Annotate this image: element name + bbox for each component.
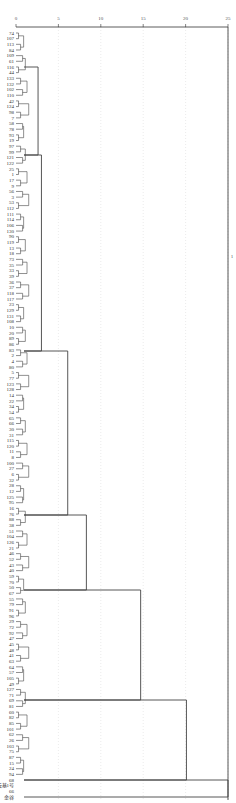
leaf-label: 129 <box>7 308 15 313</box>
leaf-label: 49 <box>9 682 15 687</box>
cluster-merge <box>24 700 186 780</box>
leaf-label: 101 <box>7 727 15 732</box>
leaf-label: 119 <box>7 240 15 245</box>
leaf-label: 39 <box>9 274 15 279</box>
leaf-label: 75 <box>9 749 15 754</box>
leaf-label: 21 <box>9 546 15 551</box>
leaf-label: 16 <box>9 506 15 511</box>
dendrogram-chart: 0510152025741071138410961116441331321021… <box>0 0 236 803</box>
x-tick-label: 15 <box>141 16 147 21</box>
side-marker: 1 <box>231 254 234 259</box>
leaf-label: 116 <box>7 65 15 70</box>
leaf-label: 70 <box>9 580 15 585</box>
cluster-merge <box>24 515 86 590</box>
leaf-label: 25 <box>9 167 15 172</box>
leaf-label: 118 <box>7 291 15 296</box>
leaf-label: 87 <box>9 755 15 760</box>
leaf-label: 120 <box>7 444 15 449</box>
leaf-label: 57 <box>9 670 15 675</box>
leaf-label: 77 <box>9 376 15 381</box>
leaf-label: 117 <box>7 297 15 302</box>
leaf-label: 10 <box>9 325 15 330</box>
leaf-label: 41 <box>9 653 15 658</box>
leaf-label: 29 <box>9 619 15 624</box>
leaf-label: 76 <box>9 512 15 517</box>
leaf-label: 89 <box>9 336 15 341</box>
leaf-label: 13 <box>9 246 15 251</box>
leaf-label: 127 <box>7 687 15 692</box>
leaf-label: 32 <box>9 478 15 483</box>
leaf-label: 15 <box>9 761 15 766</box>
leaf-label: 14 <box>9 393 15 398</box>
leaf-label: 12 <box>9 489 15 494</box>
leaf-label: 18 <box>9 251 15 256</box>
leaf-label: 84 <box>9 48 15 53</box>
leaf-label: 56 <box>9 189 15 194</box>
leaf-label: 61 <box>9 59 15 64</box>
leaf-label: 110 <box>7 93 15 98</box>
leaf-label: 58 <box>9 121 15 126</box>
leaf-label: 122 <box>7 161 15 166</box>
leaf-label: 96 <box>9 614 15 619</box>
leaf-label: 43 <box>9 563 15 568</box>
leaf-label: 108 <box>7 319 15 324</box>
leaf-label: 5 <box>12 370 15 375</box>
leaf-label: 121 <box>7 155 15 160</box>
leaf-label: 36 <box>9 280 15 285</box>
cluster-merge <box>24 590 141 700</box>
leaf-label: 37 <box>9 285 15 290</box>
cluster-merge <box>24 67 38 155</box>
leaf-label: 42 <box>9 99 15 104</box>
leaf-label: 48 <box>9 648 15 653</box>
leaf-label: 94 <box>9 772 15 777</box>
leaf-label: 28 <box>9 483 15 488</box>
leaf-label: 27 <box>9 466 15 471</box>
leaf-label: 114 <box>7 217 15 222</box>
leaf-label: 2 <box>12 353 15 358</box>
leaf-label: 90 <box>9 234 15 239</box>
leaf-label: 35 <box>9 263 15 268</box>
x-tick-label: 25 <box>226 16 232 21</box>
leaf-label: 79 <box>9 602 15 607</box>
leaf-label: 72 <box>9 625 15 630</box>
leaf-label: 124 <box>7 104 15 109</box>
leaf-label: 44 <box>9 70 15 75</box>
leaf-label: 46 <box>9 551 15 556</box>
leaf-label: 80 <box>9 365 15 370</box>
leaf-label: 3 <box>12 195 15 200</box>
leaf-label: 99 <box>9 150 15 155</box>
leaf-label: 34 <box>9 404 15 409</box>
x-tick-label: 5 <box>57 16 60 21</box>
leaf-label: 8 <box>12 455 15 460</box>
leaf-label: 47 <box>9 636 15 641</box>
leaf-label: 123 <box>7 382 15 387</box>
leaf-label: 115 <box>7 438 15 443</box>
leaf-label: 51 <box>9 529 15 534</box>
x-tick-label: 20 <box>183 16 189 21</box>
leaf-label: 26 <box>9 738 15 743</box>
leaf-label: 95 <box>9 500 15 505</box>
leaf-label: 83 <box>9 348 15 353</box>
leaf-label: 126 <box>7 540 15 545</box>
leaf-label: 86 <box>9 342 15 347</box>
x-tick-label: 0 <box>15 16 18 21</box>
cluster-merge <box>24 351 68 515</box>
leaf-label: 91 <box>9 608 15 613</box>
cluster-merge <box>24 155 41 351</box>
leaf-label: 100 <box>7 461 15 466</box>
leaf-label: 74 <box>9 31 15 36</box>
leaf-label: 52 <box>9 557 15 562</box>
leaf-label: 19 <box>9 138 15 143</box>
leaf-label: 66 <box>9 789 15 794</box>
leaf-label: 125 <box>7 495 15 500</box>
leaf-label: 20 <box>9 331 15 336</box>
leaf-label: 107 <box>7 36 15 41</box>
leaf-label: 92 <box>9 631 15 636</box>
leaf-label: 9 <box>12 184 15 189</box>
leaf-label: 1 <box>12 172 15 177</box>
leaf-label: 50 <box>9 585 15 590</box>
leaf-label: 71 <box>9 693 15 698</box>
leaf-label: 4 <box>12 359 15 364</box>
leaf-label: 102 <box>7 87 15 92</box>
leaf-label: 97 <box>9 144 15 149</box>
